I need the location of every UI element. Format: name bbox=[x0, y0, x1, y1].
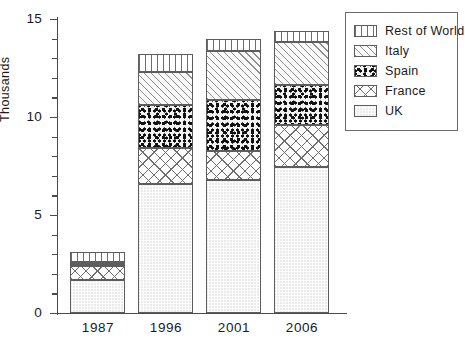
bar-segment-1996-uk bbox=[138, 184, 193, 313]
y-tick-minor-9 bbox=[52, 137, 58, 138]
x-tick-label-2006: 2006 bbox=[264, 320, 340, 335]
legend-item-uk[interactable]: UK bbox=[354, 101, 450, 121]
bar-segment-2006-uk bbox=[274, 167, 329, 313]
bar-2006 bbox=[274, 19, 329, 313]
y-tick-major-5 bbox=[50, 215, 58, 216]
y-tick-minor-6 bbox=[52, 195, 58, 196]
legend: Rest of WorldItalySpainFranceUK bbox=[345, 12, 458, 131]
bar-segment-2006-france bbox=[274, 125, 329, 167]
bar-segment-1987-row bbox=[70, 252, 125, 262]
y-tick-minor-14 bbox=[52, 39, 58, 40]
bar-segment-2001-uk bbox=[206, 180, 261, 313]
legend-item-spain[interactable]: Spain bbox=[354, 61, 450, 81]
bar-segment-1996-spain bbox=[138, 105, 193, 148]
legend-item-france[interactable]: France bbox=[354, 81, 450, 101]
x-tick-label-1996: 1996 bbox=[128, 320, 204, 335]
bar-segment-1996-italy bbox=[138, 72, 193, 105]
legend-swatch-italy-icon bbox=[354, 45, 377, 57]
legend-label-row: Rest of World bbox=[385, 24, 464, 38]
bar-1987 bbox=[70, 19, 125, 313]
y-tick-minor-4 bbox=[52, 235, 58, 236]
legend-swatch-spain-icon bbox=[354, 65, 377, 77]
bar-segment-2001-spain bbox=[206, 100, 261, 151]
legend-label-spain: Spain bbox=[385, 64, 418, 78]
bar-segment-1996-row bbox=[138, 54, 193, 72]
y-axis-line bbox=[57, 17, 58, 315]
y-tick-minor-1 bbox=[52, 293, 58, 294]
bar-segment-2001-italy bbox=[206, 51, 261, 100]
y-tick-label-10: 10 bbox=[8, 109, 42, 124]
y-tick-minor-12 bbox=[52, 78, 58, 79]
bar-segment-1987-spain bbox=[70, 264, 125, 266]
y-tick-label-0: 0 bbox=[8, 305, 42, 320]
x-tick-label-2001: 2001 bbox=[196, 320, 272, 335]
y-tick-major-10 bbox=[50, 117, 58, 118]
legend-item-row[interactable]: Rest of World bbox=[354, 21, 450, 41]
bar-segment-2006-row bbox=[274, 31, 329, 42]
bar-segment-2001-france bbox=[206, 151, 261, 179]
y-tick-minor-8 bbox=[52, 156, 58, 157]
bar-1996 bbox=[138, 19, 193, 313]
x-axis-line bbox=[57, 313, 347, 314]
legend-label-uk: UK bbox=[385, 104, 403, 118]
y-tick-minor-7 bbox=[52, 176, 58, 177]
legend-label-italy: Italy bbox=[385, 44, 409, 58]
bar-segment-2006-spain bbox=[274, 85, 329, 125]
y-tick-minor-13 bbox=[52, 58, 58, 59]
y-tick-label-5: 5 bbox=[8, 207, 42, 222]
bar-segment-1996-france bbox=[138, 148, 193, 183]
y-tick-major-0 bbox=[50, 313, 58, 314]
y-tick-minor-3 bbox=[52, 254, 58, 255]
bar-segment-1987-uk bbox=[70, 280, 125, 313]
bar-segment-1987-italy bbox=[70, 262, 125, 264]
y-tick-minor-2 bbox=[52, 274, 58, 275]
x-tick-label-1987: 1987 bbox=[60, 320, 136, 335]
legend-swatch-france-icon bbox=[354, 85, 377, 97]
chart-root: Thousands 051015 1987199620012006 Rest o… bbox=[0, 0, 465, 360]
bar-segment-1987-france bbox=[70, 266, 125, 280]
legend-item-italy[interactable]: Italy bbox=[354, 41, 450, 61]
bar-2001 bbox=[206, 19, 261, 313]
bar-segment-2006-italy bbox=[274, 42, 329, 85]
legend-swatch-uk-icon bbox=[354, 105, 377, 117]
bar-segment-2001-row bbox=[206, 39, 261, 52]
legend-label-france: France bbox=[385, 84, 426, 98]
legend-swatch-row-icon bbox=[354, 25, 377, 37]
y-tick-minor-11 bbox=[52, 97, 58, 98]
y-tick-label-15: 15 bbox=[8, 11, 42, 26]
y-tick-major-15 bbox=[50, 19, 58, 20]
